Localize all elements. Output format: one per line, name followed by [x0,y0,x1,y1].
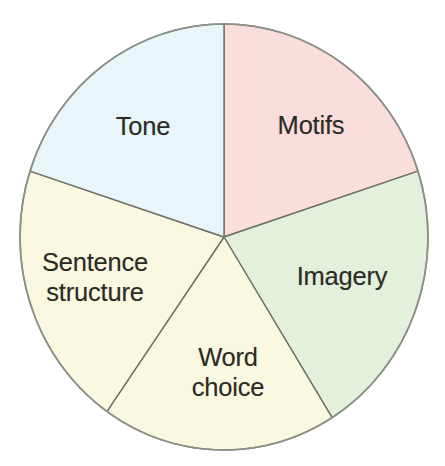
pie-slice-group [20,24,428,450]
pie-chart-svg [0,0,445,466]
pie-chart: MotifsImageryWord choiceSentence structu… [0,0,445,466]
